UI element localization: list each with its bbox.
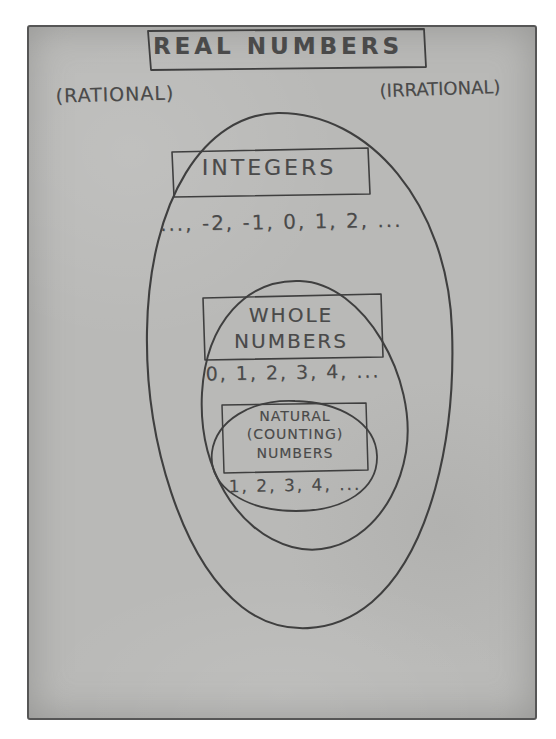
natural-numbers-title: NATURAL (COUNTING) NUMBERS [224,407,366,462]
whole-numbers-title-line2: NUMBERS [208,329,374,355]
integers-values: ..., -2, -1, 0, 1, 2, ... [160,210,390,235]
natural-numbers-title-line1: NATURAL [224,407,366,425]
whole-numbers-title: WHOLE NUMBERS [208,303,374,354]
natural-numbers-values: 1, 2, 3, 4, ... [228,476,362,496]
whole-numbers-title-line1: WHOLE [208,303,374,329]
natural-numbers-title-line3: NUMBERS [224,444,366,462]
diagram-canvas: REAL NUMBERS (RATIONAL) (IRRATIONAL) INT… [0,0,556,739]
real-numbers-title: REAL NUMBERS [152,34,404,58]
integers-title: INTEGERS [176,156,362,179]
whole-numbers-values: 0, 1, 2, 3, 4, ... [196,361,390,384]
natural-numbers-title-line2: (COUNTING) [224,425,366,443]
